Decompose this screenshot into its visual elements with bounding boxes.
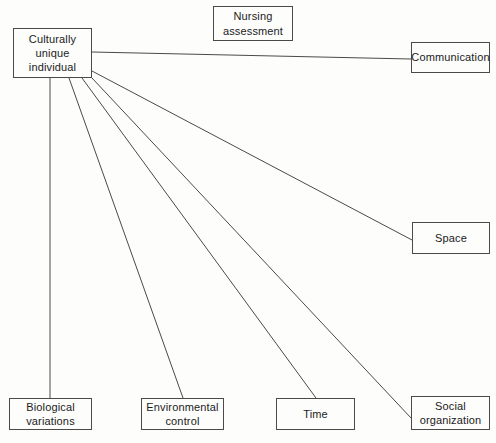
edge-communication xyxy=(92,52,411,59)
node-environmental-control[interactable]: Environmental control xyxy=(141,398,224,430)
node-social-organization-label: Social organization xyxy=(417,399,485,427)
node-space[interactable]: Space xyxy=(412,222,490,254)
node-culturally-unique-individual-label: Culturally unique individual xyxy=(26,32,79,74)
node-communication-label: Communication xyxy=(408,50,492,64)
node-time[interactable]: Time xyxy=(276,398,355,430)
node-biological-variations-label: Biological variations xyxy=(23,400,78,428)
node-space-label: Space xyxy=(432,231,470,245)
node-biological-variations[interactable]: Biological variations xyxy=(9,398,92,430)
edge-space xyxy=(92,71,412,240)
nursing-assessment-diagram: Nursing assessment Culturally unique ind… xyxy=(0,0,496,443)
edge-environmental-control xyxy=(69,78,183,398)
node-time-label: Time xyxy=(300,407,331,421)
edge-social-organization xyxy=(92,78,411,418)
edge-time xyxy=(82,78,316,398)
node-culturally-unique-individual[interactable]: Culturally unique individual xyxy=(13,28,92,78)
node-nursing-assessment-label: Nursing assessment xyxy=(220,9,286,37)
node-communication[interactable]: Communication xyxy=(411,42,490,73)
node-environmental-control-label: Environmental control xyxy=(143,400,221,428)
node-social-organization[interactable]: Social organization xyxy=(411,396,490,430)
node-nursing-assessment[interactable]: Nursing assessment xyxy=(213,6,293,41)
